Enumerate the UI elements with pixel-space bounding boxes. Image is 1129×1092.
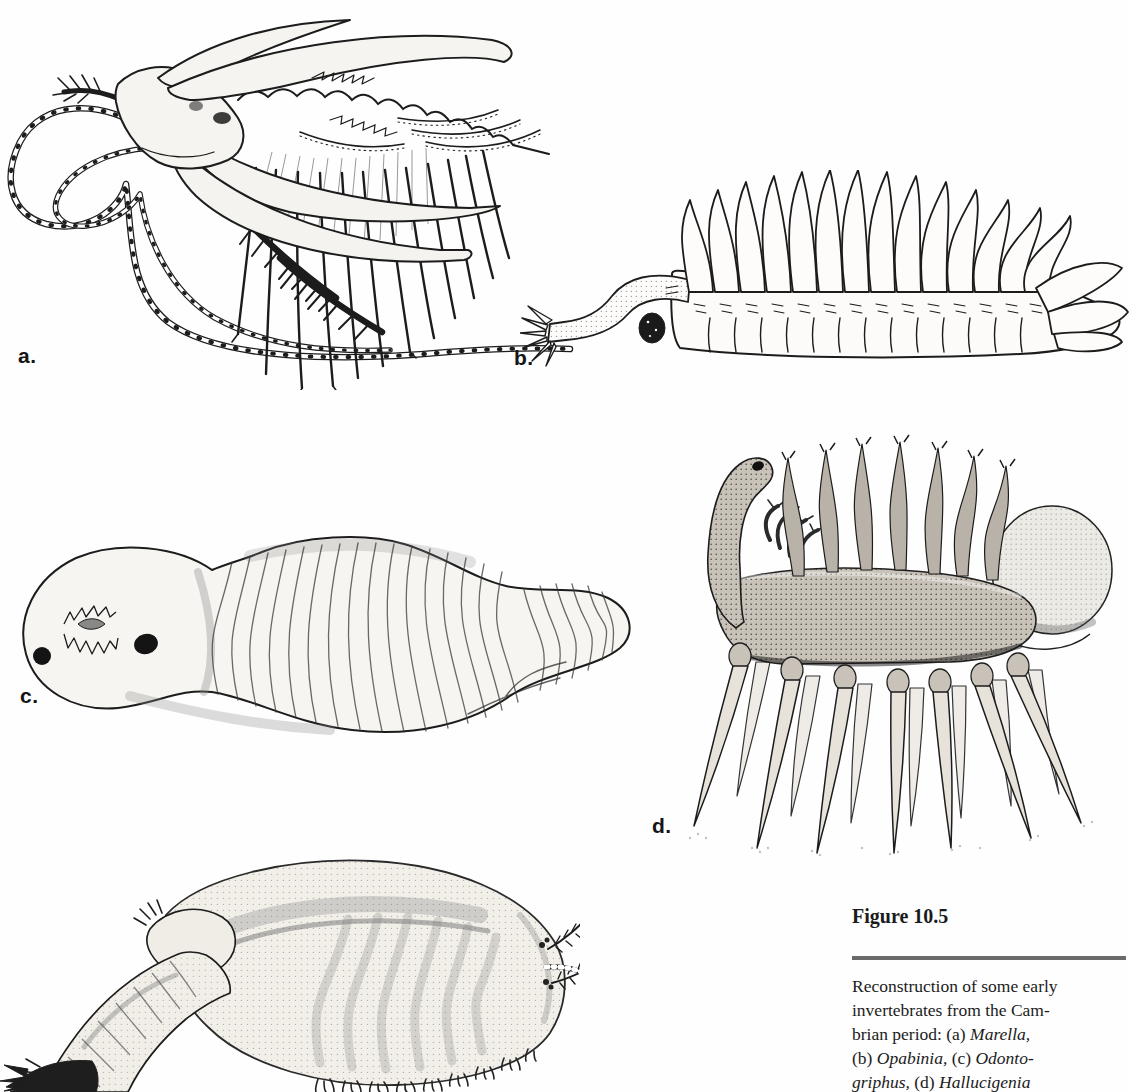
caption-rule (852, 956, 1126, 960)
opabinia-eye (639, 313, 665, 343)
opabinia-lobes (682, 170, 1071, 313)
figure-caption-text: Reconstruction of some early invertebrat… (852, 974, 1126, 1092)
opabinia-illustration (520, 170, 1129, 375)
odontogriphus-drawing (0, 500, 640, 745)
caption-text-part: (b) (852, 1048, 877, 1068)
caption-text-part: Reconstruction of some early (852, 976, 1058, 996)
textbook-figure-page: a. b. c. d. Figure 10.5 Reconstruction o… (0, 0, 1129, 1092)
marella-illustration (0, 0, 580, 390)
caption-text-part: brian period: (a) (852, 1024, 970, 1044)
hallucigenia-body (717, 568, 1036, 664)
caption-genus-marella: Marella, (970, 1024, 1030, 1044)
figure-caption: Figure 10.5 Reconstruction of some early… (852, 904, 1126, 1092)
hallucigenia-drawing (640, 418, 1129, 858)
marella-body-segments (238, 89, 549, 154)
marella-gill-fronds (300, 110, 540, 151)
marella-drawing (0, 0, 580, 390)
panel-label-a: a. (18, 344, 37, 368)
opabinia-drawing (520, 170, 1129, 375)
caption-text-part: (d) (910, 1072, 939, 1092)
odontogriphus-illustration (0, 500, 640, 745)
caption-genus-hallucigenia: Hallucigenia (939, 1072, 1030, 1092)
caption-line: Reconstruction of some early (852, 974, 1126, 998)
bivalved-arthropod-illustration (0, 855, 580, 1092)
caption-text-part: (c) (947, 1048, 975, 1068)
caption-text-part: invertebrates from the Cam- (852, 1000, 1050, 1020)
bivalved-arthropod-drawing (0, 855, 580, 1092)
opabinia-proboscis (520, 276, 690, 366)
ground-stipple (689, 821, 1093, 856)
caption-line: invertebrates from the Cam- (852, 998, 1126, 1022)
marella-hairy-appendage (53, 75, 122, 103)
hallucigenia-dorsal-tentacles (782, 435, 1015, 580)
panel-label-c: c. (20, 684, 39, 708)
caption-line: (b) Opabinia, (c) Odonto- (852, 1046, 1126, 1070)
caption-line: brian period: (a) Marella, (852, 1022, 1126, 1046)
caption-line: griphus, (d) Hallucigenia (852, 1070, 1126, 1092)
caption-genus-opabinia: Opabinia, (877, 1048, 948, 1068)
figure-caption-title: Figure 10.5 (852, 904, 1126, 928)
panel-label-d: d. (652, 814, 672, 838)
panel-label-b: b. (514, 346, 534, 370)
caption-genus-griphus: griphus, (852, 1072, 910, 1092)
caption-genus-odonto: Odonto- (975, 1048, 1033, 1068)
hallucigenia-illustration (640, 418, 1129, 858)
spiky-tail (0, 1059, 98, 1092)
